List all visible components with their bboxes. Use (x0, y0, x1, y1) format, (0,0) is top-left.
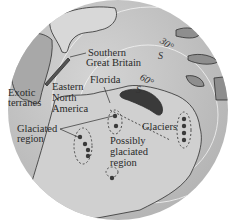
label-eastern-1: Eastern (52, 82, 84, 92)
label-possibly-2: glaciated (110, 147, 148, 157)
label-eastern-2: North (52, 93, 77, 103)
label-florida: Florida (90, 75, 120, 85)
latitude-60-hem: S (136, 84, 141, 95)
label-exotic-2: terranes (8, 98, 41, 108)
island-4 (214, 76, 232, 100)
globe-svg (0, 0, 236, 224)
label-eastern-3: America (52, 104, 88, 114)
label-glaciers: Glaciers (142, 122, 177, 132)
paleogeographic-map: Southern Great Britain Florida Exotic te… (0, 0, 236, 224)
island-1 (176, 28, 200, 38)
label-southern-great-britain-2: Great Britain (86, 58, 141, 68)
label-possibly-3: region (110, 158, 137, 168)
latitude-30-hem: S (158, 50, 163, 61)
label-glaciated-2: region (17, 134, 44, 144)
label-possibly-1: Possibly (110, 136, 146, 146)
